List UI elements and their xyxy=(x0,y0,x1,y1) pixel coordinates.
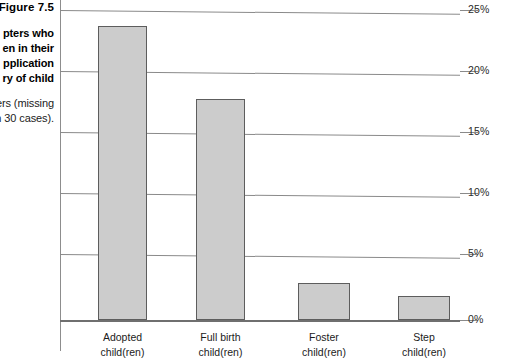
bar xyxy=(298,283,350,320)
figure-page: Figure 7.5 pters who en in their pplicat… xyxy=(0,0,522,364)
y-axis-label: 25% xyxy=(468,3,490,15)
y-axis-label: 5% xyxy=(468,247,484,259)
x-axis-category-label: Stepchild(ren) xyxy=(374,330,474,360)
bar-chart: 0%5%10%15%20%25% Adoptedchild(ren)Full b… xyxy=(60,0,522,364)
y-axis-label: 10% xyxy=(468,186,490,198)
x-axis-category-label: Full birthchild(ren) xyxy=(171,330,271,360)
caption-bold-line-4: ry of child xyxy=(0,71,54,85)
caption-bold-line-1: pters who xyxy=(0,26,54,40)
y-axis-label: 15% xyxy=(468,125,490,137)
caption-regular-line-1: ers (missing xyxy=(0,96,54,110)
caption-regular-line-2: n 30 cases). xyxy=(0,111,54,125)
bar xyxy=(196,99,245,320)
x-axis-category-label: Fosterchild(ren) xyxy=(274,330,374,360)
x-axis-line xyxy=(60,320,460,322)
y-axis-label: 0% xyxy=(468,313,484,325)
figure-number: Figure 7.5 xyxy=(0,0,54,15)
caption-bold-line-3: pplication xyxy=(0,56,54,70)
caption-regular-text: ers (missing n 30 cases). xyxy=(0,96,54,125)
x-axis-category-label: Adoptedchild(ren) xyxy=(73,330,173,360)
bar xyxy=(98,26,147,320)
bar xyxy=(398,296,450,320)
caption-bold-text: pters who en in their pplication ry of c… xyxy=(0,26,54,85)
figure-caption: Figure 7.5 pters who en in their pplicat… xyxy=(0,0,54,126)
gridline xyxy=(60,10,460,15)
caption-bold-line-2: en in their xyxy=(0,41,54,55)
y-axis-label: 20% xyxy=(468,64,490,76)
